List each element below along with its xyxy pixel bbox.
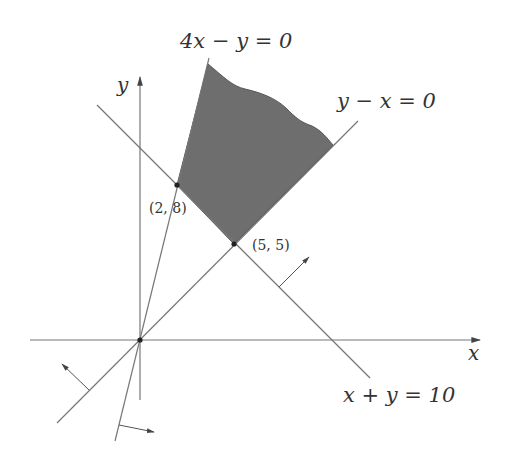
vertex-5-5 — [231, 241, 236, 246]
y-axis-label: y — [116, 73, 129, 97]
vertex-2-8 — [174, 182, 179, 187]
arrow-4x-minus-y — [119, 425, 154, 432]
origin-point — [137, 337, 142, 342]
label-x-plus-y-10: x + y = 10 — [343, 383, 455, 407]
label-y-minus-x: y − x = 0 — [336, 89, 436, 113]
diagram-canvas: 4x − y = 0 y − x = 0 x + y = 10 y x (2, … — [0, 0, 507, 456]
label-4x-minus-y: 4x − y = 0 — [179, 29, 292, 53]
vertex-2-8-label: (2, 8) — [149, 200, 187, 216]
line-4x-minus-y — [115, 58, 209, 441]
arrow-y-minus-x — [62, 364, 89, 390]
vertex-5-5-label: (5, 5) — [252, 237, 290, 253]
arrow-x-plus-y — [279, 257, 309, 287]
x-axis-label: x — [468, 341, 479, 365]
